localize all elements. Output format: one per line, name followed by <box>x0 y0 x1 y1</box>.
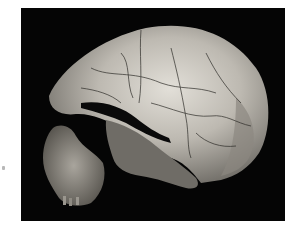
margin-mark <box>2 166 5 170</box>
skull-photo <box>21 8 285 221</box>
maxilla-fragment <box>43 126 105 206</box>
